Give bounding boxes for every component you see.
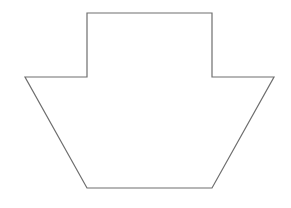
stepped-polygon-shape bbox=[25, 13, 274, 188]
figure-canvas bbox=[0, 0, 291, 208]
diagram-svg bbox=[0, 0, 291, 208]
